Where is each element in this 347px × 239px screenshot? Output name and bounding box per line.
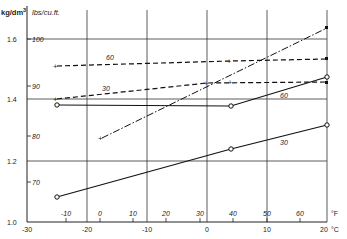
svg-text:80: 80 (32, 133, 40, 140)
curve-label-30-solid: 30 (280, 139, 288, 146)
curve-label-60-dashed: 60 (106, 54, 114, 61)
svg-text:10: 10 (129, 210, 137, 217)
series-60-dashed: + + 60 (53, 54, 328, 71)
svg-text:-10: -10 (61, 210, 71, 217)
curve-label-60-solid: 60 (280, 92, 288, 99)
svg-text:+: + (204, 80, 208, 87)
svg-text:50: 50 (263, 210, 271, 217)
svg-text:1.6: 1.6 (7, 36, 17, 43)
series-dashdot: + (98, 26, 328, 143)
svg-text:+: + (228, 79, 232, 86)
svg-text:+: + (98, 134, 103, 143)
y-ticks-lbs: 70 80 90 100 (27, 36, 44, 186)
x-ticks-fahrenheit: -10 0 10 20 30 40 50 60 °F (61, 210, 338, 222)
y-unit-lbs-label: lbs/cu.ft. (32, 8, 60, 17)
svg-text:90: 90 (32, 83, 40, 90)
y-ticks-kg: 1.0 1.2 1.4 1.6 (7, 36, 17, 226)
svg-text:1.2: 1.2 (7, 158, 17, 165)
svg-text:70: 70 (32, 179, 40, 186)
svg-text:1.0: 1.0 (7, 219, 17, 226)
x-unit-c-label: °C (331, 226, 339, 233)
svg-text:60: 60 (296, 210, 304, 217)
svg-text:-30: -30 (22, 226, 32, 233)
curve-label-30-dashed: 30 (102, 85, 110, 92)
series-60-solid: 60 (55, 75, 329, 108)
vertical-gridlines (87, 10, 327, 222)
svg-text:30: 30 (196, 210, 204, 217)
svg-text:+: + (53, 62, 58, 71)
svg-text:10: 10 (263, 226, 271, 233)
svg-text:-20: -20 (82, 226, 92, 233)
svg-text:-10: -10 (142, 226, 152, 233)
svg-text:20: 20 (161, 210, 170, 217)
x-unit-f-label: °F (331, 210, 338, 217)
density-chart: kg/dm3 lbs/cu.ft. 1.0 1.2 1.4 1.6 70 80 … (0, 0, 347, 239)
svg-text:1.4: 1.4 (7, 96, 17, 103)
svg-text:20: 20 (320, 226, 328, 233)
svg-text:+: + (227, 58, 231, 65)
svg-text:100: 100 (32, 36, 44, 43)
y-unit-kg-label: kg/dm3 (1, 7, 26, 17)
svg-text:0: 0 (98, 210, 102, 217)
x-ticks-celsius: -30 -20 -10 0 10 20 (22, 226, 328, 233)
svg-text:40: 40 (229, 210, 237, 217)
svg-text:0: 0 (205, 226, 209, 233)
